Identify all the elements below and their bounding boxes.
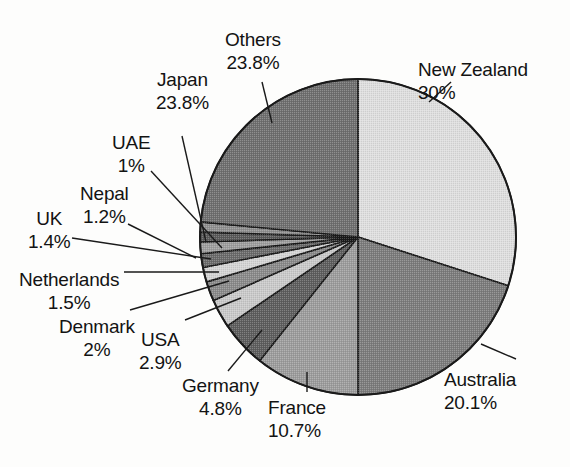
slice-label-australia: Australia20.1%	[444, 368, 516, 414]
slice-label-denmark: Denmark2%	[59, 315, 135, 361]
slice-label-percent-nepal: 1.2%	[80, 205, 129, 228]
slice-label-name-uae: UAE	[112, 131, 150, 154]
slice-label-name-uk: UK	[28, 207, 71, 230]
slice-label-percent-france: 10.7%	[268, 419, 326, 442]
slice-label-percent-japan: 23.8%	[156, 91, 209, 114]
slice-label-name-new-zealand: New Zealand	[418, 58, 528, 81]
slice-label-name-others: Others	[225, 28, 281, 51]
slice-label-percent-australia: 20.1%	[444, 391, 516, 414]
slice-label-percent-others: 23.8%	[225, 51, 281, 74]
slice-label-new-zealand: New Zealand30%	[418, 58, 528, 104]
slice-label-name-japan: Japan	[156, 68, 209, 91]
slice-label-percent-uae: 1%	[112, 154, 150, 177]
leader-line-japan	[182, 136, 206, 242]
slice-label-name-nepal: Nepal	[80, 182, 129, 205]
pie-chart-figure: New Zealand30%Australia20.1%France10.7%G…	[0, 0, 570, 467]
slice-label-uae: UAE1%	[112, 131, 150, 177]
slice-label-percent-germany: 4.8%	[182, 397, 259, 420]
slice-label-percent-new-zealand: 30%	[418, 81, 528, 104]
leader-line-australia	[481, 344, 516, 359]
slice-label-uk: UK1.4%	[28, 207, 71, 253]
slice-label-others: Others23.8%	[225, 28, 281, 74]
leader-line-nepal	[128, 224, 196, 258]
slice-label-name-netherlands: Netherlands	[19, 268, 119, 291]
slice-label-name-france: France	[268, 396, 326, 419]
slice-label-nepal: Nepal1.2%	[80, 182, 129, 228]
slice-label-japan: Japan23.8%	[156, 68, 209, 114]
slice-label-percent-netherlands: 1.5%	[19, 291, 119, 314]
slice-label-germany: Germany4.8%	[182, 374, 259, 420]
slice-label-name-germany: Germany	[182, 374, 259, 397]
slice-label-percent-uk: 1.4%	[28, 230, 71, 253]
pie-slice-texture	[201, 79, 358, 237]
slice-label-name-usa: USA	[139, 328, 182, 351]
slice-label-netherlands: Netherlands1.5%	[19, 268, 119, 314]
slice-label-name-australia: Australia	[444, 368, 516, 391]
slice-label-usa: USA2.9%	[139, 328, 182, 374]
slice-label-percent-usa: 2.9%	[139, 351, 182, 374]
slice-label-name-denmark: Denmark	[59, 315, 135, 338]
slice-label-france: France10.7%	[268, 396, 326, 442]
slice-label-percent-denmark: 2%	[59, 338, 135, 361]
